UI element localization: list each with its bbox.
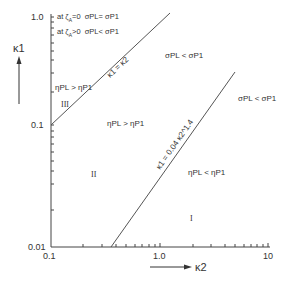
region-I-label: I: [190, 214, 193, 223]
line2-label: κ1 = 0.04 κ2^1.4: [154, 117, 195, 171]
x-tick-1.0: 1.0: [153, 251, 166, 261]
note2-rel: >0: [72, 27, 81, 36]
y-axis-label: κ1: [13, 42, 25, 54]
region-II-condition: ηPL > ηP1: [107, 119, 144, 128]
note2-eq: σPL< σP1: [85, 27, 119, 36]
x-axis-label: κ2: [195, 261, 207, 273]
x-axis-ticks: [83, 243, 268, 247]
x-arrow-head-icon: [184, 265, 192, 270]
region-mid-sigma: σPL < σP1: [165, 51, 203, 60]
line1-label: κ1 = κ2: [105, 55, 131, 80]
x-tick-0.1: 0.1: [43, 251, 56, 261]
note1-prefix: at ζ: [57, 12, 69, 21]
note2-prefix: at ζ: [57, 27, 69, 36]
region-III-condition: ηPL > ηP1: [55, 83, 92, 92]
note1-eq: σPL= σP1: [85, 12, 119, 21]
note-zeta-positive: at ζA>0 σPL< σP1: [57, 27, 119, 38]
region-right-sigma: σPL < σP1: [238, 94, 276, 103]
region-I-condition: ηPL < ηP1: [188, 168, 225, 177]
note-zeta-zero: at ζA=0 σPL= σP1: [57, 12, 119, 23]
x-tick-10: 10: [263, 251, 273, 261]
y-tick-0.1: 0.1: [31, 120, 44, 130]
note1-rel: =0: [72, 12, 81, 21]
region-II-label: II: [91, 170, 96, 179]
line-k1-eq-004-k2-pow: [111, 72, 235, 247]
y-tick-1.0: 1.0: [31, 12, 44, 22]
region-III-label: III: [61, 100, 69, 109]
y-arrow-head-icon: [17, 56, 22, 64]
